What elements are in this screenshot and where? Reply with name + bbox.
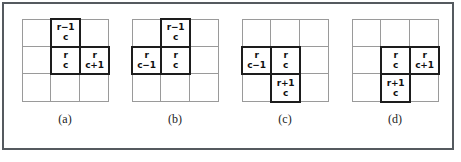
panel-d-cell-r2-c2: [410, 74, 439, 102]
panel-a: r−1crcrc+1(a): [10, 17, 120, 137]
panel-a-cell-r1-c0: [22, 47, 51, 75]
panel-c-caption: (c): [230, 112, 340, 127]
cell-row-label: r−1: [57, 23, 75, 32]
panel-b-caption: (b): [120, 112, 230, 127]
cell-col-label: c−1: [247, 61, 266, 70]
panel-b-cell-r0-c0: [132, 19, 161, 47]
cell-col-label: c+1: [415, 61, 434, 70]
panel-b-cell-r1-c0-highlighted[interactable]: rc−1: [131, 46, 162, 76]
cell-row-label: r: [283, 51, 287, 60]
panel-d-caption: (d): [340, 112, 450, 127]
panel-c-cell-r1-c1-highlighted[interactable]: rc: [270, 46, 301, 76]
cell-col-label: c: [283, 61, 288, 70]
cell-col-label: c: [173, 33, 178, 42]
panel-b-grid: r−1crc−1rc: [132, 19, 219, 102]
panel-c-cell-r2-c2: [300, 74, 329, 102]
panel-d-cell-r0-c0: [352, 19, 381, 47]
panel-b-cell-r2-c2: [190, 74, 219, 102]
panel-c-cell-r2-c0: [242, 74, 271, 102]
panel-d-cell-r0-c1: [381, 19, 410, 47]
cell-col-label: c: [63, 33, 68, 42]
panel-d-cell-r1-c2-highlighted[interactable]: rc+1: [409, 46, 440, 76]
cell-row-label: r: [393, 51, 397, 60]
cell-row-label: r+1: [387, 79, 405, 88]
panel-d-cell-r1-c1-highlighted[interactable]: rc: [380, 46, 411, 76]
cell-col-label: c: [283, 89, 288, 98]
panel-b-cell-r0-c1-highlighted[interactable]: r−1c: [160, 18, 191, 48]
panel-b-cell-r0-c2: [190, 19, 219, 47]
panel-a-grid: r−1crcrc+1: [22, 19, 109, 102]
panel-a-cell-r2-c2: [80, 74, 109, 102]
cell-col-label: c−1: [137, 61, 156, 70]
cell-row-label: r: [254, 51, 258, 60]
panel-a-cell-r1-c2-highlighted[interactable]: rc+1: [79, 46, 110, 76]
panel-a-caption: (a): [10, 112, 120, 127]
panel-c-cell-r0-c1: [271, 19, 300, 47]
cell-col-label: c: [173, 61, 178, 70]
panel-a-cell-r2-c1: [51, 74, 80, 102]
panel-b-cell-r2-c0: [132, 74, 161, 102]
panel-d-cell-r0-c2: [410, 19, 439, 47]
panels-container: r−1crcrc+1(a)r−1crc−1rc(b)rc−1rcr+1c(c)r…: [0, 0, 461, 162]
panel-a-cell-r0-c0: [22, 19, 51, 47]
panel-b: r−1crc−1rc(b): [120, 17, 230, 137]
cell-row-label: r: [144, 51, 148, 60]
cell-row-label: r: [422, 51, 426, 60]
panel-a-cell-r1-c1-highlighted[interactable]: rc: [50, 46, 81, 76]
panel-b-cell-r2-c1: [161, 74, 190, 102]
panel-c-cell-r0-c0: [242, 19, 271, 47]
panel-c-cell-r2-c1-highlighted[interactable]: r+1c: [270, 73, 301, 103]
panel-c-cell-r0-c2: [300, 19, 329, 47]
panel-d-cell-r1-c0: [352, 47, 381, 75]
panel-d-grid: rcrc+1r+1c: [352, 19, 439, 102]
cell-row-label: r: [173, 51, 177, 60]
panel-b-cell-r1-c2: [190, 47, 219, 75]
panel-c-cell-r1-c2: [300, 47, 329, 75]
figure-root: r−1crcrc+1(a)r−1crc−1rc(b)rc−1rcr+1c(c)r…: [0, 0, 461, 162]
cell-col-label: c: [393, 89, 398, 98]
panel-a-cell-r2-c0: [22, 74, 51, 102]
panel-c: rc−1rcr+1c(c): [230, 17, 340, 137]
panel-c-cell-r1-c0-highlighted[interactable]: rc−1: [241, 46, 272, 76]
cell-col-label: c: [63, 61, 68, 70]
cell-col-label: c+1: [85, 61, 104, 70]
panel-b-cell-r1-c1-highlighted[interactable]: rc: [160, 46, 191, 76]
panel-c-grid: rc−1rcr+1c: [242, 19, 329, 102]
panel-a-cell-r0-c1-highlighted[interactable]: r−1c: [50, 18, 81, 48]
panel-d-cell-r2-c0: [352, 74, 381, 102]
panel-d-cell-r2-c1-highlighted[interactable]: r+1c: [380, 73, 411, 103]
panel-d: rcrc+1r+1c(d): [340, 17, 450, 137]
cell-col-label: c: [393, 61, 398, 70]
cell-row-label: r+1: [277, 79, 295, 88]
cell-row-label: r: [92, 51, 96, 60]
cell-row-label: r−1: [167, 23, 185, 32]
cell-row-label: r: [63, 51, 67, 60]
panel-a-cell-r0-c2: [80, 19, 109, 47]
